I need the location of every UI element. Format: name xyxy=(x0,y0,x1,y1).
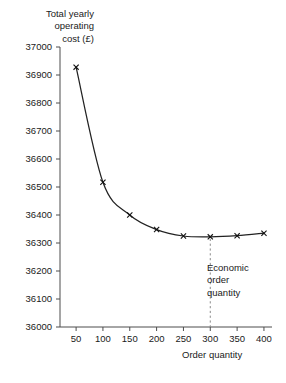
x-tick-label: 100 xyxy=(88,334,118,344)
x-tick-label: 350 xyxy=(222,334,252,344)
x-tick-label: 300 xyxy=(195,334,225,344)
data-point-markers xyxy=(74,65,267,240)
y-tick-label: 36300 xyxy=(8,238,52,248)
y-tick-label: 36900 xyxy=(8,70,52,80)
y-tick-label: 36400 xyxy=(8,210,52,220)
data-point-marker xyxy=(127,212,132,217)
y-tick-label: 36000 xyxy=(8,322,52,332)
x-tick-label: 400 xyxy=(249,334,279,344)
data-point-marker xyxy=(154,227,159,232)
y-tick-label: 36700 xyxy=(8,126,52,136)
x-tick-label: 200 xyxy=(142,334,172,344)
x-tick-label: 250 xyxy=(168,334,198,344)
y-tick-label: 36500 xyxy=(8,182,52,192)
cost-curve xyxy=(76,67,264,237)
y-tick-label: 37000 xyxy=(8,42,52,52)
x-axis-title: Order quantity xyxy=(182,349,242,361)
x-tick-label: 50 xyxy=(61,334,91,344)
y-tick-label: 36800 xyxy=(8,98,52,108)
y-tick-label: 36200 xyxy=(8,266,52,276)
x-axis-ticks xyxy=(76,327,264,331)
y-tick-label: 36600 xyxy=(8,154,52,164)
x-tick-label: 150 xyxy=(115,334,145,344)
chart-figure: Total yearly operating cost (£) 36000361… xyxy=(0,0,286,383)
y-tick-label: 36100 xyxy=(8,294,52,304)
y-axis-ticks xyxy=(56,47,60,327)
eoq-annotation-label: Economic order quantity xyxy=(207,262,273,299)
